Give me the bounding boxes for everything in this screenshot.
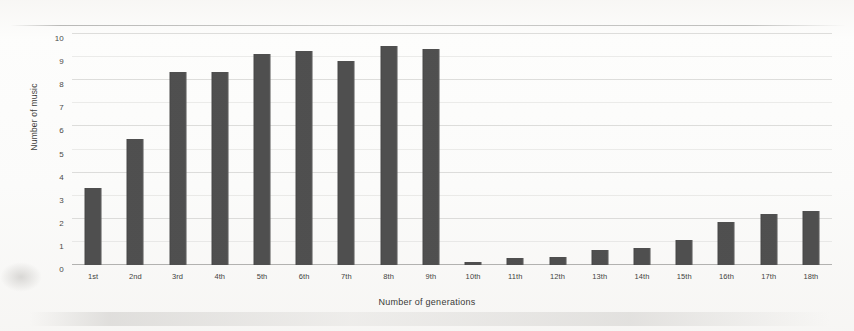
bar [465, 262, 482, 265]
bar-slot [494, 34, 536, 265]
bar-slot [156, 34, 198, 265]
x-tick-label: 9th [426, 272, 437, 281]
x-tick-label: 14th [635, 272, 650, 281]
x-tick-label: 15th [677, 272, 692, 281]
x-tick-label: 17th [761, 272, 776, 281]
x-tick-label: 16th [719, 272, 734, 281]
bar-slot [325, 34, 367, 265]
bar [296, 51, 313, 265]
x-tick-label: 5th [257, 272, 268, 281]
x-tick-label: 8th [383, 272, 394, 281]
bar-slot [748, 34, 790, 265]
x-tick-label: 11th [508, 272, 522, 281]
bar [676, 240, 693, 265]
bar [760, 214, 777, 265]
x-tick-label: 10th [466, 272, 481, 281]
x-tick-label: 12th [550, 272, 565, 281]
bar [422, 49, 439, 265]
bar [253, 54, 270, 265]
x-tick-label: 18th [803, 272, 818, 281]
bar [633, 248, 650, 265]
bar [718, 222, 735, 265]
bar-slot [663, 34, 705, 265]
bar-slot [199, 34, 241, 265]
bar [338, 61, 355, 265]
bar [591, 250, 608, 265]
bar [211, 72, 228, 265]
bar [85, 188, 102, 265]
bar-chart: 012345678910 Number of music 1st2nd3rd4t… [0, 0, 854, 331]
x-tick-label: 2nd [129, 272, 142, 281]
x-axis-title: Number of generations [0, 297, 854, 307]
bar-slot [368, 34, 410, 265]
bar [380, 46, 397, 265]
bar [549, 257, 566, 265]
bar-slot [241, 34, 283, 265]
bar-slot [705, 34, 747, 265]
y-axis-title: Number of music [29, 57, 39, 177]
bar-slot [452, 34, 494, 265]
x-tick-label: 4th [214, 272, 225, 281]
x-tick-label: 3rd [172, 272, 183, 281]
x-tick-label: 1st [88, 272, 98, 281]
bar-slot [410, 34, 452, 265]
bar [169, 72, 186, 265]
bar-slot [72, 34, 114, 265]
scanned-chart-page: 012345678910 Number of music 1st2nd3rd4t… [0, 0, 854, 331]
bar [127, 139, 144, 265]
bar-slot [536, 34, 578, 265]
bar [507, 258, 524, 265]
bar-slot [283, 34, 325, 265]
x-tick-label: 6th [299, 272, 310, 281]
bar [802, 211, 819, 265]
bar-slot [114, 34, 156, 265]
bar-slot [621, 34, 663, 265]
x-axis-tick-labels: 1st2nd3rd4th5th6th7th8th9th10th11th12th1… [72, 272, 832, 286]
bar-series [72, 34, 832, 265]
bar-slot [790, 34, 832, 265]
x-tick-label: 13th [592, 272, 607, 281]
y-axis-tick-labels: 012345678910 [38, 34, 64, 265]
x-tick-label: 7th [341, 272, 352, 281]
bar-slot [579, 34, 621, 265]
